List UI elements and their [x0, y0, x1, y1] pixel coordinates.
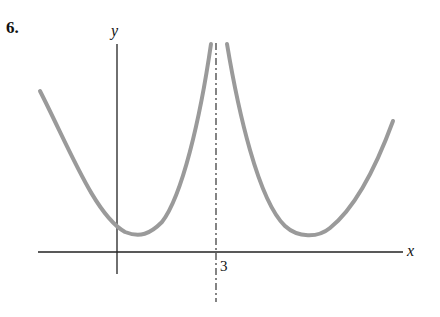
left-curve-branch: [40, 44, 211, 235]
graph-figure: [0, 0, 440, 317]
right-curve-branch: [227, 44, 393, 235]
